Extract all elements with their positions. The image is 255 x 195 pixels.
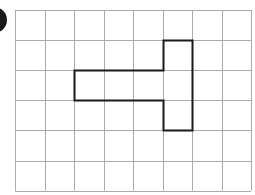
grid-diagram — [0, 0, 255, 195]
